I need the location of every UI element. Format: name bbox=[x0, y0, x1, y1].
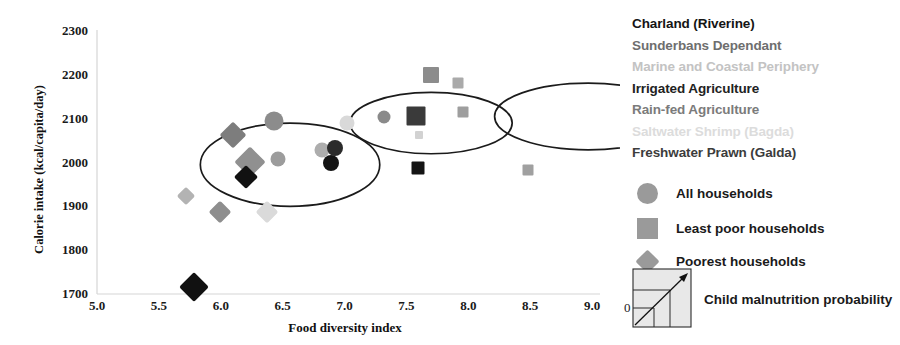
data-point-square bbox=[423, 67, 439, 83]
square-glyph-icon bbox=[637, 218, 658, 239]
y-tick-2200: 2200 bbox=[40, 67, 88, 83]
x-tick-7.5: 7.5 bbox=[398, 298, 414, 314]
legend: Charland (Riverine)Sunderbans DependantM… bbox=[632, 0, 900, 345]
circle-glyph-icon bbox=[637, 183, 658, 204]
x-tick-9.0: 9.0 bbox=[584, 298, 600, 314]
legend-marker-label: Least poor households bbox=[676, 221, 825, 236]
x-tick-7.0: 7.0 bbox=[336, 298, 352, 314]
size-legend-min-label: 0 bbox=[624, 300, 631, 316]
data-point-square bbox=[407, 106, 426, 125]
legend-marker-circle[interactable]: All households bbox=[632, 183, 773, 204]
legend-zone-2[interactable]: Marine and Coastal Periphery bbox=[632, 59, 819, 74]
size-legend-icon bbox=[632, 268, 694, 330]
y-axis-title: Calorie intake (kcal/capita/day) bbox=[32, 45, 47, 295]
x-tick-6.0: 6.0 bbox=[213, 298, 229, 314]
y-tick-1900: 1900 bbox=[40, 198, 88, 214]
x-axis-title: Food diversity index bbox=[98, 320, 592, 336]
data-point-square bbox=[458, 107, 469, 118]
size-legend-label: Child malnutrition probability bbox=[704, 292, 892, 307]
chart-root: 1700180019002000210022002300 5.05.56.06.… bbox=[0, 0, 900, 345]
size-legend: Child malnutrition probability bbox=[632, 268, 892, 330]
legend-zone-3[interactable]: Irrigated Agriculture bbox=[632, 81, 759, 96]
legend-zone-6[interactable]: Freshwater Prawn (Galda) bbox=[632, 145, 796, 160]
data-point-square bbox=[415, 131, 423, 139]
legend-zone-5[interactable]: Saltwater Shrimp (Bagda) bbox=[632, 124, 794, 139]
y-tick-2100: 2100 bbox=[40, 111, 88, 127]
legend-marker-label: All households bbox=[676, 186, 773, 201]
data-point-circle bbox=[270, 151, 285, 166]
plot-area: 1700180019002000210022002300 5.05.56.06.… bbox=[0, 0, 620, 345]
y-tick-1800: 1800 bbox=[40, 242, 88, 258]
cluster-ellipse-all-households-cluster bbox=[350, 92, 512, 153]
legend-zone-1[interactable]: Sunderbans Dependant bbox=[632, 38, 782, 53]
x-tick-5.5: 5.5 bbox=[151, 298, 167, 314]
square-swatch-icon bbox=[632, 218, 662, 239]
x-tick-8.0: 8.0 bbox=[460, 298, 476, 314]
legend-marker-label: Poorest households bbox=[676, 254, 806, 269]
y-tick-2000: 2000 bbox=[40, 155, 88, 171]
circle-swatch-icon bbox=[632, 183, 662, 204]
data-point-square bbox=[453, 77, 464, 88]
data-point-square bbox=[522, 165, 533, 176]
legend-zone-4[interactable]: Rain-fed Agriculture bbox=[632, 102, 759, 117]
x-tick-8.5: 8.5 bbox=[522, 298, 538, 314]
legend-zone-0[interactable]: Charland (Riverine) bbox=[632, 16, 755, 31]
data-point-square bbox=[411, 161, 424, 174]
y-tick-2300: 2300 bbox=[40, 23, 88, 39]
x-tick-5.0: 5.0 bbox=[89, 298, 105, 314]
data-point-circle bbox=[339, 115, 354, 130]
data-point-circle bbox=[264, 111, 283, 130]
x-tick-6.5: 6.5 bbox=[275, 298, 291, 314]
cluster-ellipse-least-poor-cluster bbox=[495, 83, 620, 150]
cluster-ellipse-group bbox=[200, 83, 620, 206]
data-point-circle bbox=[378, 111, 391, 124]
data-point-circle bbox=[323, 155, 339, 171]
legend-marker-square[interactable]: Least poor households bbox=[632, 218, 825, 239]
y-tick-1700: 1700 bbox=[40, 286, 88, 302]
